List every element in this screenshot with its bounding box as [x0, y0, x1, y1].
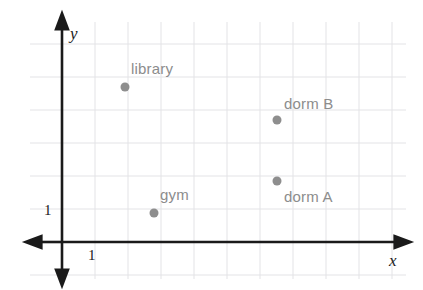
y-axis-label: y: [70, 24, 78, 44]
data-point-dot: [273, 116, 282, 125]
axes: [0, 0, 423, 290]
data-point-dot: [273, 177, 282, 186]
data-point-label: dorm B: [284, 95, 334, 112]
coordinate-plane-figure: y x 1 1 librarydorm Bdorm Agym: [0, 0, 423, 290]
y-unit-tick-label: 1: [44, 202, 52, 219]
data-point-label: library: [131, 60, 173, 77]
data-point-dot: [150, 209, 159, 218]
x-axis-label: x: [389, 251, 397, 271]
x-unit-tick-label: 1: [88, 247, 96, 264]
data-point-label: gym: [160, 186, 189, 203]
data-point-label: dorm A: [284, 188, 333, 205]
data-point-dot: [121, 83, 130, 92]
